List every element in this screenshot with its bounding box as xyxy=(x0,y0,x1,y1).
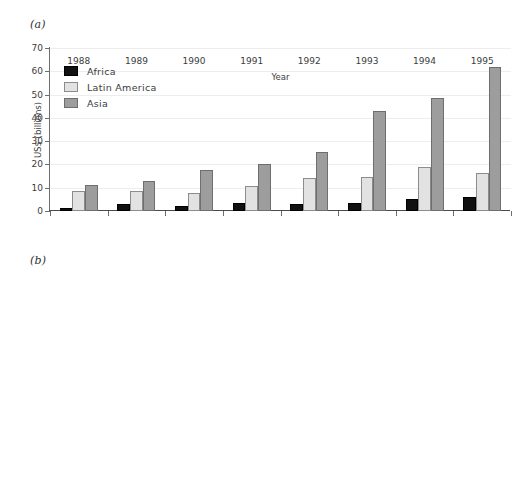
y-axis-tick xyxy=(45,118,50,119)
y-axis-tick-label: 40 xyxy=(32,113,43,123)
x-axis-tick xyxy=(281,211,282,216)
bar-asia-1992 xyxy=(316,152,329,211)
legend-label-latin-america: Latin America xyxy=(87,82,157,93)
legend-swatch-latin-america-icon xyxy=(64,82,78,92)
bar-africa-1988 xyxy=(60,208,73,211)
x-axis-tick-label: 1995 xyxy=(471,56,494,66)
bar-africa-1991 xyxy=(233,203,246,211)
y-axis-tick-label: 30 xyxy=(32,136,43,146)
x-axis-tick xyxy=(453,211,454,216)
x-axis-tick-label: 1991 xyxy=(240,56,263,66)
bar-asia-1990 xyxy=(200,170,213,211)
bar-africa-1992 xyxy=(290,204,303,211)
bar-latin-america-1994 xyxy=(418,167,431,211)
legend-a: Africa Latin America Asia xyxy=(64,64,157,112)
x-axis-tick xyxy=(223,211,224,216)
x-axis-tick xyxy=(108,211,109,216)
y-axis-tick-label: 0 xyxy=(37,206,43,216)
bar-africa-1989 xyxy=(117,204,130,211)
x-axis-tick-label: 1993 xyxy=(355,56,378,66)
legend-swatch-africa-icon xyxy=(64,66,78,76)
y-axis-tick xyxy=(45,164,50,165)
legend-item-africa: Africa xyxy=(64,64,157,78)
gridline xyxy=(50,48,511,49)
legend-item-asia: Asia xyxy=(64,96,157,110)
bar-asia-1989 xyxy=(143,181,156,211)
x-axis-tick xyxy=(511,211,512,216)
legend-item-latin-america: Latin America xyxy=(64,80,157,94)
bar-latin-america-1991 xyxy=(245,186,258,211)
figure-two-panel-bar-charts: (a) US$ (billions) Year 0102030405060701… xyxy=(0,0,525,487)
panel-a-label: (a) xyxy=(30,18,46,31)
bar-africa-1990 xyxy=(175,206,188,211)
bar-latin-america-1992 xyxy=(303,178,316,211)
bar-latin-america-1995 xyxy=(476,173,489,211)
x-axis-tick-label: 1994 xyxy=(413,56,436,66)
x-axis-tick xyxy=(165,211,166,216)
panel-b: (b) US$ (billions) Year -100102030405060… xyxy=(0,236,525,487)
bar-latin-america-1990 xyxy=(188,193,201,211)
y-axis-tick xyxy=(45,188,50,189)
y-axis-tick xyxy=(45,71,50,72)
y-axis-tick xyxy=(45,141,50,142)
x-axis-tick xyxy=(338,211,339,216)
y-axis-tick xyxy=(45,95,50,96)
bar-latin-america-1988 xyxy=(72,191,85,211)
bar-asia-1995 xyxy=(489,67,502,211)
legend-label-africa: Africa xyxy=(87,66,116,77)
bar-latin-america-1993 xyxy=(361,177,374,211)
panel-b-label: (b) xyxy=(30,254,46,267)
y-axis-tick-label: 70 xyxy=(32,43,43,53)
bar-asia-1993 xyxy=(373,111,386,211)
y-axis-tick-label: 20 xyxy=(32,159,43,169)
bar-asia-1991 xyxy=(258,164,271,211)
bar-asia-1988 xyxy=(85,185,98,211)
y-axis-tick-label: 10 xyxy=(32,183,43,193)
y-axis-tick xyxy=(45,48,50,49)
legend-swatch-asia-icon xyxy=(64,98,78,108)
x-axis-title-a: Year xyxy=(272,72,290,82)
x-axis-tick xyxy=(396,211,397,216)
bar-africa-1993 xyxy=(348,203,361,211)
y-axis-tick-label: 60 xyxy=(32,66,43,76)
panel-a: (a) US$ (billions) Year 0102030405060701… xyxy=(0,0,525,244)
bar-asia-1994 xyxy=(431,98,444,211)
bar-latin-america-1989 xyxy=(130,191,143,211)
x-axis-tick-label: 1990 xyxy=(183,56,206,66)
x-axis-tick xyxy=(50,211,51,216)
y-axis-tick-label: 50 xyxy=(32,90,43,100)
y-axis-title-a: US$ (billions) xyxy=(33,101,43,157)
bar-africa-1995 xyxy=(463,197,476,211)
bar-africa-1994 xyxy=(406,199,419,211)
legend-label-asia: Asia xyxy=(87,98,108,109)
x-axis-tick-label: 1992 xyxy=(298,56,321,66)
